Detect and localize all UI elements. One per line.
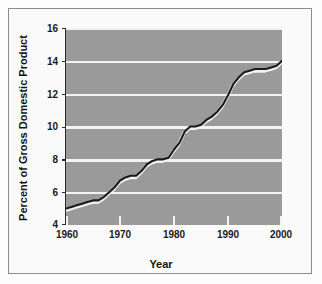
x-tick-label-2000: 2000 (261, 229, 301, 240)
y-tick-label-8: 8 (34, 154, 58, 165)
y-tick-label-10: 10 (34, 121, 58, 132)
x-tick-label-1960: 1960 (47, 229, 87, 240)
x-tick-label-1990: 1990 (208, 229, 248, 240)
x-tick-label-1980: 1980 (154, 229, 194, 240)
y-axis-spine (62, 28, 66, 225)
y-tick-label-6: 6 (34, 187, 58, 198)
x-tick-label-1970: 1970 (100, 229, 140, 240)
y-axis-title: Percent of Gross Domestic Product (17, 33, 29, 223)
line-chart-plot (0, 0, 322, 284)
y-tick-label-12: 12 (34, 89, 58, 100)
x-axis-title: Year (0, 258, 322, 270)
y-tick-label-14: 14 (34, 56, 58, 67)
y-tick-label-16: 16 (34, 23, 58, 34)
chart-figure: 16 14 12 10 8 6 4 1960 1970 1980 1990 20… (0, 0, 322, 284)
